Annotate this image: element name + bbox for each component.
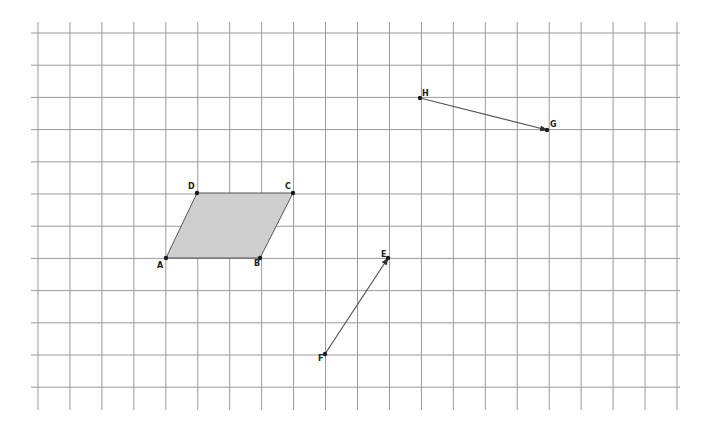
point-label-f: F [318,355,323,363]
point-d [195,191,199,195]
point-c [291,191,295,195]
point-label-c: C [285,183,291,191]
point-label-g: G [550,121,557,129]
point-label-a: A [157,262,163,270]
grid-diagram [0,0,709,431]
point-g [545,128,549,132]
vector-fe [325,258,388,354]
point-label-e: E [381,251,386,259]
parallelogram-abcd [166,193,293,258]
vector-hg [420,98,547,130]
point-label-h: H [422,90,429,98]
point-a [164,256,168,260]
grid [31,22,680,410]
point-label-b: B [254,260,260,268]
point-label-d: D [188,183,195,191]
